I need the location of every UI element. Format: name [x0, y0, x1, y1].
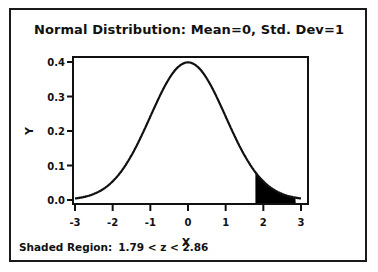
x-tick-label: -1 — [145, 217, 156, 228]
y-tick-label: 0.2 — [47, 126, 65, 137]
plot-border — [73, 57, 308, 204]
shaded-region-label: Shaded Region: — [19, 241, 112, 253]
x-tick-label: 2 — [260, 217, 267, 228]
y-tick-label: 0.4 — [47, 57, 65, 68]
shaded-region-caption: Shaded Region:1.79 < z < 2.86 — [19, 241, 208, 253]
plot-area: 0.00.10.20.30.4-3-2-10123YX — [0, 0, 378, 272]
x-tick-label: -3 — [69, 217, 80, 228]
x-tick-label: -2 — [107, 217, 118, 228]
x-tick-label: 1 — [222, 217, 229, 228]
shaded-region-range: 1.79 < z < 2.86 — [118, 241, 208, 253]
shaded-region — [255, 172, 295, 204]
y-tick-label: 0.0 — [47, 195, 65, 206]
y-tick-label: 0.1 — [47, 161, 65, 172]
y-axis-label: Y — [23, 126, 36, 136]
x-tick-label: 3 — [298, 217, 305, 228]
normal-curve — [75, 62, 301, 198]
x-tick-label: 0 — [185, 217, 192, 228]
y-tick-label: 0.3 — [47, 92, 65, 103]
